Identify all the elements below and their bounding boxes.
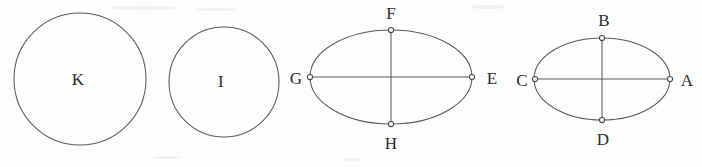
- geometry-figure: K I F E H G B A D C: [0, 0, 702, 167]
- scan-speck: [342, 158, 362, 161]
- scan-speck: [470, 5, 506, 9]
- vertex-label-e: E: [487, 70, 498, 87]
- vertex-marker-a: [667, 76, 672, 81]
- scan-speck: [108, 6, 178, 10]
- vertex-label-b: B: [598, 12, 610, 29]
- scan-speck: [152, 156, 180, 159]
- vertex-label-a: A: [681, 72, 693, 89]
- shape-ellipse-efgh: [307, 27, 474, 126]
- scan-speck: [196, 8, 238, 11]
- vertex-marker-g: [307, 74, 312, 79]
- vertex-marker-e: [469, 74, 474, 79]
- vertex-label-d: D: [597, 131, 609, 148]
- vertex-marker-f: [388, 27, 393, 32]
- vertex-marker-h: [388, 121, 393, 126]
- shape-ellipse-abcd: [532, 35, 672, 122]
- vertex-label-g: G: [290, 70, 302, 87]
- vertex-label-f: F: [386, 5, 396, 22]
- vertex-marker-c: [532, 76, 537, 81]
- circle-k-label: K: [72, 71, 84, 88]
- vertex-label-c: C: [516, 72, 528, 89]
- vertex-label-h: H: [385, 135, 397, 152]
- vertex-marker-b: [599, 35, 604, 40]
- circle-i-label: I: [218, 73, 224, 90]
- vertex-marker-d: [599, 117, 604, 122]
